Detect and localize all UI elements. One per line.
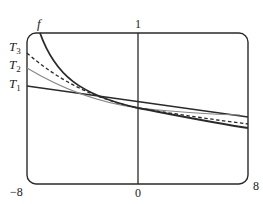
label-t1-sub: 1	[16, 83, 21, 93]
label-t3-sub: 3	[16, 46, 21, 56]
label-f: f	[37, 17, 41, 30]
label-x-max: 8	[253, 180, 259, 192]
label-t1: T1	[9, 77, 21, 93]
label-t2-sub: 2	[16, 64, 21, 74]
label-t2: T2	[9, 58, 21, 74]
label-x-min: −8	[10, 186, 23, 198]
series-t2	[27, 68, 240, 115]
label-y-top: 1	[135, 18, 141, 30]
label-x-zero: 0	[135, 187, 141, 199]
label-t3: T3	[9, 40, 21, 56]
